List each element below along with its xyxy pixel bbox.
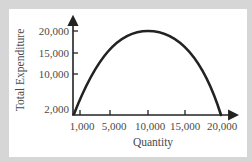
x-tick-label-15000: 15,000: [170, 120, 201, 132]
y-tick-label-20000: 20,000: [39, 25, 70, 37]
x-tick-label-1000: 1,000: [70, 120, 95, 132]
y-tick-label-2000: 2,000: [44, 103, 69, 115]
x-axis-title: Quantity: [133, 136, 173, 149]
x-tick-label-5000: 5,000: [102, 120, 127, 132]
total-expenditure-chart: 20,000 15,000 10,000 2,000 1,000 5,000 1…: [0, 0, 252, 162]
y-tick-label-15000: 15,000: [39, 47, 70, 59]
expenditure-curve: [74, 31, 221, 115]
x-tick-label-10000: 10,000: [135, 120, 166, 132]
y-tick-label-10000: 10,000: [39, 68, 70, 80]
y-axis-title: Total Expenditure: [14, 29, 27, 112]
x-tick-label-20000: 20,000: [207, 120, 238, 132]
